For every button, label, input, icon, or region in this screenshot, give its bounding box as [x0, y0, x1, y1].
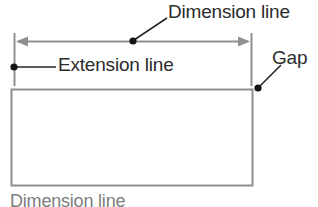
gap-leader-dot [254, 84, 261, 91]
diagram-canvas: Dimension line Extension line Gap Dimens… [0, 0, 318, 207]
dimension-line-leader-dot [129, 37, 136, 44]
label-gap: Gap [272, 48, 307, 67]
gap-leader [259, 65, 281, 87]
part-rectangle [12, 90, 253, 186]
dimension-arrowhead-right [238, 37, 250, 47]
label-extension-line: Extension line [58, 55, 174, 74]
dimension-arrowhead-left [16, 37, 28, 47]
label-dimension-line-top: Dimension line [168, 2, 290, 21]
label-dimension-line-bottom: Dimension line [10, 192, 125, 207]
extension-line-leader-dot [10, 63, 17, 70]
dimensioning-diagram [0, 0, 318, 207]
dimension-line-leader [134, 18, 167, 40]
